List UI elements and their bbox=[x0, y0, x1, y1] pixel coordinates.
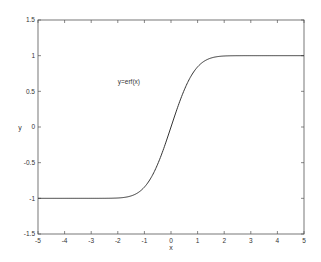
x-tick-label: 0 bbox=[169, 237, 173, 244]
x-tick-label: 5 bbox=[302, 237, 306, 244]
x-tick-label: 1 bbox=[196, 237, 200, 244]
x-axis-label: x bbox=[169, 244, 173, 251]
curve-annotation: y=erf(x) bbox=[118, 78, 140, 86]
y-tick-label: 1.5 bbox=[26, 16, 35, 23]
x-axis-ticks: -5-4-3-2-1012345 bbox=[35, 20, 306, 244]
y-tick-label: 0 bbox=[31, 123, 35, 130]
x-tick-label: -5 bbox=[35, 237, 41, 244]
y-tick-label: 0.5 bbox=[26, 88, 35, 95]
x-tick-label: -2 bbox=[115, 237, 121, 244]
erf-curve bbox=[38, 56, 304, 199]
x-tick-label: -4 bbox=[62, 237, 68, 244]
x-tick-label: -3 bbox=[88, 237, 94, 244]
x-tick-label: 3 bbox=[249, 237, 253, 244]
y-tick-label: -1.5 bbox=[24, 230, 36, 237]
erf-plot: -5-4-3-2-1012345 -1.5-1-0.500.511.5 x y … bbox=[0, 0, 321, 262]
x-tick-label: -1 bbox=[142, 237, 148, 244]
x-tick-label: 4 bbox=[276, 237, 280, 244]
y-tick-label: -0.5 bbox=[24, 159, 36, 166]
y-axis-label: y bbox=[18, 124, 22, 132]
y-tick-label: 1 bbox=[31, 52, 35, 59]
y-axis-ticks: -1.5-1-0.500.511.5 bbox=[24, 16, 304, 237]
y-tick-label: -1 bbox=[29, 195, 35, 202]
x-tick-label: 2 bbox=[222, 237, 226, 244]
